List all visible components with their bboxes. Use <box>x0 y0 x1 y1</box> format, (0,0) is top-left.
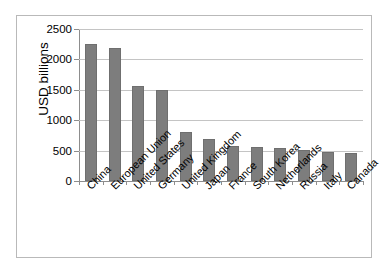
y-axis-tick <box>74 151 79 152</box>
x-axis-category-labels: ChinaEuropean UnionUnited StatesGermanyU… <box>79 184 363 264</box>
bar-chart-figure: USD billions 05001000150020002500 ChinaE… <box>0 0 388 275</box>
y-axis-tick-label: 1500 <box>46 84 72 96</box>
chart-frame: USD billions 05001000150020002500 ChinaE… <box>16 15 372 258</box>
gridline <box>79 90 363 91</box>
bar <box>85 44 97 181</box>
y-axis-tick-label: 1000 <box>46 114 72 126</box>
y-axis-tick <box>74 90 79 91</box>
gridline <box>79 59 363 60</box>
gridline <box>79 29 363 30</box>
y-axis-tick <box>74 120 79 121</box>
y-axis-tick <box>74 29 79 30</box>
y-axis-tick-label: 2000 <box>46 53 72 65</box>
bar <box>109 48 121 181</box>
y-axis-tick-label: 500 <box>53 145 72 157</box>
y-axis-tick <box>74 59 79 60</box>
gridline <box>79 120 363 121</box>
y-axis-tick-label: 0 <box>66 175 72 187</box>
y-axis-tick-label: 2500 <box>46 23 72 35</box>
x-axis-tick <box>363 181 364 185</box>
